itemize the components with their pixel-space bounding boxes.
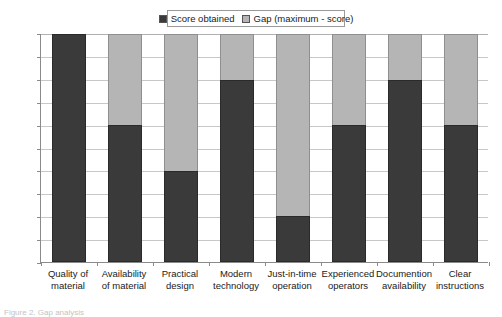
bar-slot (41, 34, 97, 262)
legend-label-gap: Gap (maximum - score) (254, 14, 354, 24)
bar-segment-gap[interactable] (276, 34, 310, 216)
x-axis-category-label-line: instructions (429, 280, 491, 292)
stacked-bar[interactable] (444, 34, 478, 262)
bar-segment-gap[interactable] (164, 34, 198, 171)
x-axis-category-label: Clearinstructions (429, 268, 491, 291)
x-axis-category-label-line: of material (93, 280, 155, 292)
bar-slot (265, 34, 321, 262)
x-axis-tick-mark (321, 262, 322, 266)
x-axis-category-label: Just-in-timeoperation (261, 268, 323, 291)
x-axis-category-label-line: Experienced (317, 268, 379, 280)
legend-entry-score-obtained: Score obtained (159, 14, 235, 24)
x-axis-category-label: Quality ofmaterial (37, 268, 99, 291)
x-axis-category-label: Practicaldesign (149, 268, 211, 291)
chart-plot-area: 5.004.504.003.503.002.502.001.501.000.50… (40, 34, 488, 263)
bar-series-container (41, 34, 488, 262)
legend-entry-gap: Gap (maximum - score) (242, 14, 354, 24)
stacked-bar[interactable] (164, 34, 198, 262)
bar-slot (433, 34, 489, 262)
bar-segment-gap[interactable] (444, 34, 478, 125)
bar-segment-score[interactable] (164, 171, 198, 262)
x-axis-tick-mark (97, 262, 98, 266)
x-axis-labels: Quality ofmaterialAvailabilityof materia… (40, 268, 488, 300)
bar-segment-score[interactable] (388, 80, 422, 262)
stacked-bar[interactable] (332, 34, 366, 262)
bar-segment-gap[interactable] (388, 34, 422, 80)
x-axis-tick-mark (377, 262, 378, 266)
x-axis-category-label: Availabilityof material (93, 268, 155, 291)
bar-slot (153, 34, 209, 262)
x-axis-category-label-line: operation (261, 280, 323, 292)
bar-segment-score[interactable] (444, 125, 478, 262)
bar-slot (321, 34, 377, 262)
legend-label-score-obtained: Score obtained (171, 14, 235, 24)
x-axis-category-label-line: Just-in-time (261, 268, 323, 280)
legend-swatch-gap (242, 15, 250, 23)
x-axis-category-label-line: Modern (205, 268, 267, 280)
x-axis-category-label: Experiencedoperators (317, 268, 379, 291)
bar-segment-score[interactable] (220, 80, 254, 262)
bar-segment-gap[interactable] (220, 34, 254, 80)
x-axis-category-label-line: Documention (373, 268, 435, 280)
bar-segment-score[interactable] (52, 34, 86, 262)
stacked-bar[interactable] (220, 34, 254, 262)
bar-segment-gap[interactable] (332, 34, 366, 125)
bar-segment-score[interactable] (332, 125, 366, 262)
bar-slot (209, 34, 265, 262)
x-axis-category-label-line: material (37, 280, 99, 292)
x-axis-category-label: Moderntechnology (205, 268, 267, 291)
x-axis-category-label-line: design (149, 280, 211, 292)
stacked-bar[interactable] (276, 34, 310, 262)
bar-segment-score[interactable] (276, 216, 310, 262)
x-axis-category-label-line: operators (317, 280, 379, 292)
stacked-bar[interactable] (108, 34, 142, 262)
x-axis-tick-mark (265, 262, 266, 266)
x-axis-tick-mark (489, 262, 490, 266)
x-axis-tick-mark (433, 262, 434, 266)
stacked-bar[interactable] (388, 34, 422, 262)
stacked-bar[interactable] (52, 34, 86, 262)
x-axis-tick-mark (41, 262, 42, 266)
x-axis-category-label: Documentionavailability (373, 268, 435, 291)
bar-slot (377, 34, 433, 262)
x-axis-category-label-line: Practical (149, 268, 211, 280)
bar-segment-score[interactable] (108, 125, 142, 262)
x-axis-category-label-line: Clear (429, 268, 491, 280)
figure-caption: Figure 2. Gap analysis (4, 308, 84, 317)
x-axis-category-label-line: technology (205, 280, 267, 292)
x-axis-category-label-line: Availability (93, 268, 155, 280)
legend-swatch-score-obtained (159, 15, 167, 23)
bar-segment-gap[interactable] (108, 34, 142, 125)
x-axis-category-label-line: availability (373, 280, 435, 292)
x-axis-tick-mark (209, 262, 210, 266)
bar-slot (97, 34, 153, 262)
chart-legend: Score obtained Gap (maximum - score) (167, 10, 345, 27)
x-axis-category-label-line: Quality of (37, 268, 99, 280)
x-axis-tick-mark (153, 262, 154, 266)
